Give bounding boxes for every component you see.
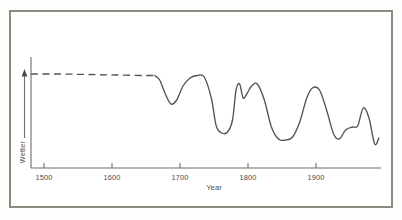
y-axis-direction-arrow [22,69,28,138]
x-axis-ticks [44,163,316,168]
weather-timeseries-chart: Wetter 1500 1600 1700 1800 1900 Year [0,0,402,220]
y-axis-title: Wetter [18,140,27,163]
x-tick-label-1800: 1800 [239,173,256,182]
x-axis-title: Year [206,183,222,192]
x-tick-label-1600: 1600 [103,173,120,182]
series-line-dashed [31,74,155,76]
x-tick-label-1500: 1500 [35,173,52,182]
series-line-solid [155,75,379,145]
figure-root: Wetter 1500 1600 1700 1800 1900 Year [0,0,402,220]
x-tick-label-1900: 1900 [307,173,324,182]
x-tick-label-1700: 1700 [171,173,188,182]
